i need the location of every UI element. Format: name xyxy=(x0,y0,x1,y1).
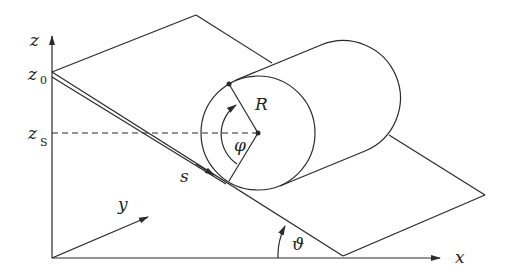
inclined-plane xyxy=(52,15,485,256)
R-label: R xyxy=(254,94,268,114)
y-axis-label: y xyxy=(117,194,128,214)
center-point xyxy=(256,131,261,136)
theta-label: ϑ xyxy=(292,234,304,254)
z0-label: z xyxy=(27,64,38,84)
s-path-line xyxy=(52,77,226,184)
phi-label: φ xyxy=(234,135,246,155)
y-axis xyxy=(52,217,148,258)
z-axis-label: z xyxy=(29,30,40,50)
zs-label: z xyxy=(27,123,38,143)
x-axis-label: x xyxy=(455,247,465,267)
theta-angle-arc xyxy=(278,226,285,258)
radius-line xyxy=(229,84,258,133)
zs-subscript: S xyxy=(40,136,48,149)
inclined-plane-diagram: z z 0 z S s R φ y ϑ x xyxy=(0,0,512,270)
z0-subscript: 0 xyxy=(40,74,47,87)
s-label: s xyxy=(180,166,189,186)
top-point xyxy=(227,82,232,87)
cylinder xyxy=(201,41,400,190)
